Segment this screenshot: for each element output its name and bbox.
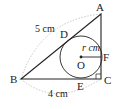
center-point-o [80, 56, 83, 59]
geometry-diagram: A B C D E F O 5 cm 4 cm r cm [0, 0, 120, 109]
label-d: D [60, 28, 68, 40]
measure-radius: r cm [82, 42, 100, 53]
label-o: O [77, 59, 85, 71]
label-a: A [96, 1, 104, 13]
label-c: C [104, 74, 111, 86]
label-e: E [77, 80, 84, 92]
measure-bc: 4 cm [48, 88, 68, 99]
label-b: B [10, 73, 17, 85]
measure-ab: 5 cm [35, 23, 55, 34]
label-f: F [103, 51, 109, 63]
right-angle-mark [96, 74, 101, 79]
